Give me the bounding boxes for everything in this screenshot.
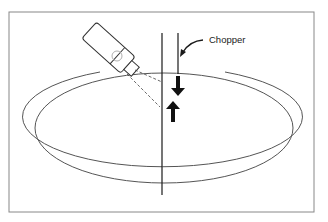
chopper-pointer-arrowhead — [180, 49, 186, 57]
dashed-beam-lines — [135, 70, 162, 82]
diagram-canvas — [0, 0, 328, 222]
down-arrow — [171, 76, 185, 96]
chopper-pointer-arrow — [183, 40, 203, 52]
chopper-label: Chopper — [209, 34, 245, 45]
up-arrow — [166, 101, 180, 122]
probe-device — [82, 22, 143, 80]
